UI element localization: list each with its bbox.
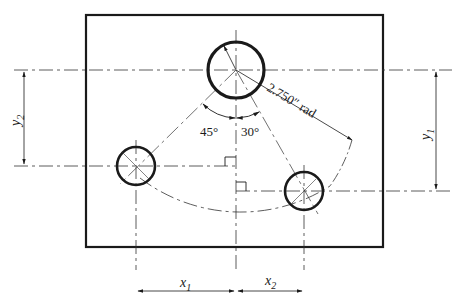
bolt-circle-arc xyxy=(140,178,330,212)
angle-45-label: 45° xyxy=(200,124,218,139)
angle-30-label: 30° xyxy=(241,124,259,139)
x2-label: x2 xyxy=(264,273,276,291)
y2-label: y2 xyxy=(8,115,26,128)
right-angle-marker-right xyxy=(236,182,246,191)
angle-arc-30 xyxy=(237,112,259,118)
y1-label: y1 xyxy=(418,129,436,142)
center-lines xyxy=(14,30,452,270)
radius-label: 2.750″ rad xyxy=(264,80,319,121)
angle-arc-45 xyxy=(203,104,235,118)
holes xyxy=(117,42,323,210)
x1-label: x1 xyxy=(179,275,191,293)
radius-leader xyxy=(224,46,236,70)
right-angle-marker-left xyxy=(225,157,236,166)
radius-arc-extension xyxy=(330,140,352,186)
drawing-canvas: y2 y1 x1 x2 45° 30° 2.750″ rad xyxy=(0,0,464,301)
